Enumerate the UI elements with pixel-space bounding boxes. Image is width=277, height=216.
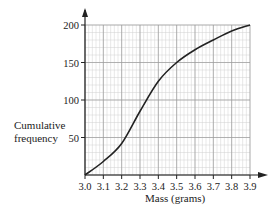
cumulative-frequency-chart: 3.03.13.23.33.43.53.63.73.83.95010015020… xyxy=(0,0,277,216)
y-tick-label: 50 xyxy=(69,133,80,144)
x-tick-label: 3.4 xyxy=(152,181,166,192)
x-tick-label: 3.3 xyxy=(133,181,146,192)
y-axis-label-line2: frequency xyxy=(14,132,65,145)
x-tick-label: 3.7 xyxy=(207,181,220,192)
y-axis-label-line1: Cumulative xyxy=(14,119,65,132)
x-axis-label: Mass (grams) xyxy=(145,192,205,204)
x-tick-label: 3.8 xyxy=(225,181,238,192)
x-tick-label: 3.2 xyxy=(115,181,128,192)
x-tick-label: 3.5 xyxy=(170,181,183,192)
y-tick-label: 100 xyxy=(63,95,79,106)
x-tick-label: 3.0 xyxy=(78,181,91,192)
y-tick-label: 200 xyxy=(63,20,79,31)
y-tick-label: 150 xyxy=(63,58,79,69)
x-tick-label: 3.6 xyxy=(188,181,201,192)
y-axis-label: Cumulative frequency xyxy=(14,119,65,145)
x-tick-label: 3.1 xyxy=(97,181,110,192)
x-tick-label: 3.9 xyxy=(243,181,256,192)
